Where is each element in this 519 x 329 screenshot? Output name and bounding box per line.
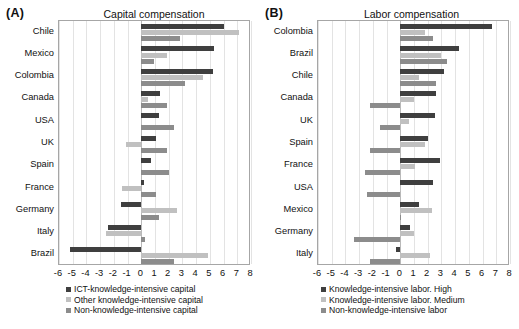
category-label-colombia: Colombia — [257, 26, 313, 36]
panel-a-plot-area — [58, 20, 250, 265]
category-label-uk: UK — [0, 137, 54, 147]
bar — [400, 36, 433, 41]
category-label-canada: Canada — [0, 92, 54, 102]
bar-group — [318, 88, 508, 110]
category-label-mexico: Mexico — [0, 48, 54, 58]
bar-group — [59, 155, 249, 177]
category-label-germany: Germany — [0, 204, 54, 214]
bar — [141, 158, 151, 163]
bar — [396, 247, 400, 252]
legend-label: Knowledge-intensive labor. High — [329, 284, 452, 295]
bar — [367, 192, 400, 197]
category-label-italy: Italy — [257, 248, 313, 258]
bar — [141, 24, 223, 29]
category-label-brazil: Brazil — [257, 48, 313, 58]
legend-item: ICT-knowledge-intensive capital — [66, 284, 203, 295]
legend-swatch-icon — [66, 308, 71, 313]
legend-swatch-icon — [321, 297, 326, 302]
category-label-france: France — [0, 182, 54, 192]
bar — [141, 91, 160, 96]
bar — [141, 113, 159, 118]
bar-group — [59, 199, 249, 221]
bar-group — [318, 132, 508, 154]
gridline — [251, 21, 252, 264]
legend-label: Non-knowledge-intensive labor — [329, 305, 447, 316]
bar — [106, 231, 142, 236]
bar — [354, 237, 401, 242]
category-label-colombia: Colombia — [0, 70, 54, 80]
bar — [370, 103, 400, 108]
bar-group — [59, 177, 249, 199]
bar — [141, 69, 212, 74]
bar — [400, 119, 408, 124]
bar — [400, 164, 415, 169]
bar — [400, 75, 419, 80]
bar — [141, 259, 174, 264]
bar — [70, 247, 141, 252]
bar — [400, 158, 440, 163]
bar — [141, 97, 148, 102]
legend-swatch-icon — [66, 287, 71, 292]
bar — [141, 215, 159, 220]
bar — [141, 75, 203, 80]
bar-group — [318, 199, 508, 221]
bar — [141, 36, 179, 41]
bar — [141, 192, 156, 197]
bar — [400, 202, 419, 207]
bar — [400, 46, 459, 51]
legend-label: ICT-knowledge-intensive capital — [74, 284, 195, 295]
bar-group — [318, 177, 508, 199]
legend-item: Other knowledge-intensive capital — [66, 295, 203, 306]
bar — [126, 142, 141, 147]
bar-group — [318, 43, 508, 65]
bar — [141, 59, 153, 64]
legend-swatch-icon — [321, 308, 326, 313]
bar-group — [59, 110, 249, 132]
bar — [400, 69, 444, 74]
bar — [141, 237, 145, 242]
bar-group — [318, 110, 508, 132]
bar — [400, 81, 436, 86]
category-label-germany: Germany — [257, 226, 313, 236]
category-label-france: France — [257, 159, 313, 169]
category-label-mexico: Mexico — [257, 204, 313, 214]
category-label-canada: Canada — [257, 92, 313, 102]
legend-item: Non-knowledge-intensive labor — [321, 305, 465, 316]
bar — [141, 46, 214, 51]
bar-group — [59, 43, 249, 65]
bar — [400, 225, 410, 230]
bar — [400, 215, 401, 220]
bar — [370, 148, 400, 153]
bar — [122, 186, 141, 191]
figure-root: (A) Capital compensation ICT-knowledge-i… — [0, 0, 519, 329]
bar — [400, 113, 434, 118]
legend-swatch-icon — [66, 297, 71, 302]
bar — [141, 253, 208, 258]
bar-group — [318, 244, 508, 266]
panel-b-letter: (B) — [265, 6, 283, 20]
bar — [141, 81, 185, 86]
x-tick-label: 8 — [501, 268, 517, 278]
bar-group — [318, 221, 508, 243]
bar — [380, 125, 401, 130]
panel-a-letter: (A) — [6, 6, 24, 20]
bar — [400, 253, 430, 258]
bar — [141, 164, 142, 169]
bar-group — [59, 221, 249, 243]
panel-b-title: Labor compensation — [309, 8, 514, 20]
bar — [141, 119, 142, 124]
bar — [400, 30, 425, 35]
bar — [400, 186, 401, 191]
bar-group — [318, 66, 508, 88]
bar — [370, 259, 400, 264]
bar — [141, 30, 238, 35]
bar — [121, 202, 142, 207]
gridline — [510, 21, 511, 264]
bar — [141, 53, 167, 58]
bar — [400, 24, 492, 29]
category-label-chile: Chile — [257, 70, 313, 80]
bar — [141, 180, 144, 185]
bar — [141, 170, 168, 175]
panel-b-plot-area — [317, 20, 509, 265]
bar — [400, 231, 414, 236]
